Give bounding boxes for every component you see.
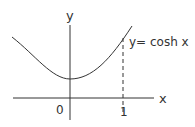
diagram-svg: y x 0 1 y= cosh x bbox=[0, 0, 195, 127]
cosh-curve bbox=[12, 26, 132, 79]
curve-label: y= cosh x bbox=[129, 35, 189, 49]
y-axis-label: y bbox=[66, 8, 74, 23]
origin-label: 0 bbox=[56, 103, 64, 117]
x-axis-label: x bbox=[159, 91, 167, 106]
cosh-diagram: y x 0 1 y= cosh x bbox=[0, 0, 195, 127]
tick-one-label: 1 bbox=[120, 105, 128, 119]
